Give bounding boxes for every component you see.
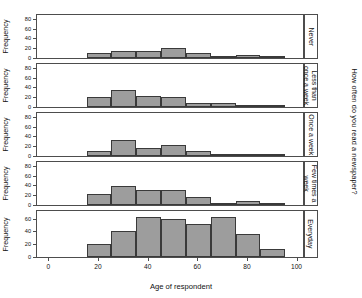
panel-never	[36, 14, 304, 59]
x-tick-label: 40	[138, 263, 158, 270]
strip-label-text: Less thanonce a week	[303, 66, 318, 105]
panel-everyday	[36, 210, 304, 258]
histogram-bar	[136, 148, 161, 156]
y-tick-label: 60	[17, 26, 31, 32]
histogram-bar	[161, 97, 186, 107]
y-tick	[33, 136, 36, 137]
histogram-bar	[260, 154, 285, 156]
y-axis-title-text: Frequency	[2, 20, 11, 54]
y-tick-label: 20	[17, 94, 31, 100]
y-tick	[33, 146, 36, 147]
y-axis-title-text: Frequency	[2, 69, 11, 103]
histogram-bar	[87, 194, 112, 205]
y-tick	[33, 231, 36, 232]
y-axis-title-text: Frequency	[2, 167, 11, 201]
y-tick	[33, 87, 36, 88]
y-axis-title-panel-3: Frequency	[0, 161, 12, 206]
strip-label-0: Never	[304, 14, 318, 59]
x-tick-label: 0	[38, 263, 58, 270]
y-tick	[33, 257, 36, 258]
y-axis-title-panel-1: Frequency	[0, 63, 12, 108]
y-tick-label: 60	[17, 124, 31, 130]
y-tick-label: 40	[17, 228, 31, 234]
y-tick-label: 20	[17, 192, 31, 198]
y-tick	[33, 166, 36, 167]
histogram-bar	[161, 48, 186, 58]
histogram-bar	[186, 224, 211, 257]
y-tick	[33, 107, 36, 108]
histogram-bar	[186, 197, 211, 205]
bars-group	[37, 15, 303, 58]
plot-area	[36, 63, 304, 108]
y-tick	[33, 38, 36, 39]
y-tick	[33, 195, 36, 196]
x-tick	[148, 258, 149, 261]
panel-once-a-week	[36, 112, 304, 157]
strip-title-text: How often do you read a newspaper?	[350, 68, 359, 194]
y-tick-label: 20	[17, 45, 31, 51]
x-tick	[247, 258, 248, 261]
plot-area	[36, 210, 304, 258]
bars-group	[37, 162, 303, 205]
histogram-bar	[236, 201, 261, 205]
histogram-bar	[260, 56, 285, 58]
y-tick	[33, 97, 36, 98]
histogram-bar	[136, 190, 161, 205]
y-tick	[33, 29, 36, 30]
histogram-bar	[236, 105, 261, 107]
strip-label-text: Few times aweek	[303, 165, 318, 203]
y-axis-title-panel-2: Frequency	[0, 112, 12, 157]
y-tick-label: 80	[17, 16, 31, 22]
x-tick-label: 20	[88, 263, 108, 270]
strip-title: How often do you read a newspaper?	[347, 0, 361, 262]
y-tick	[33, 117, 36, 118]
histogram-bar	[87, 53, 112, 58]
strip-label-2: Once a week	[304, 112, 318, 157]
histogram-bar	[87, 97, 112, 107]
x-tick	[197, 258, 198, 261]
strip-label-1: Less thanonce a week	[304, 63, 318, 108]
x-tick	[48, 258, 49, 261]
y-tick-label: 0	[17, 254, 31, 260]
histogram-bar	[211, 154, 236, 156]
histogram-bar	[186, 151, 211, 156]
histogram-bar	[236, 234, 261, 257]
x-tick	[98, 258, 99, 261]
histogram-bar	[136, 96, 161, 107]
histogram-bar	[161, 145, 186, 156]
trellis-histogram-figure: How often do you read a newspaper? Frequ…	[0, 0, 362, 298]
y-tick-label: 20	[17, 143, 31, 149]
strip-label-text: Everyday	[307, 219, 315, 248]
y-axis-title-text: Frequency	[2, 217, 11, 251]
bars-group	[37, 64, 303, 107]
panel-few-times-a-week	[36, 161, 304, 206]
histogram-bar	[111, 186, 136, 205]
y-tick	[33, 19, 36, 20]
x-tick-label: 60	[187, 263, 207, 270]
y-axis-title-text: Frequency	[2, 118, 11, 152]
histogram-bar	[161, 190, 186, 205]
histogram-bar	[211, 217, 236, 257]
x-tick-label: 80	[237, 263, 257, 270]
y-tick	[33, 244, 36, 245]
y-tick	[33, 156, 36, 157]
bars-group	[37, 211, 303, 257]
plot-area	[36, 112, 304, 157]
y-tick	[33, 127, 36, 128]
plot-area	[36, 14, 304, 59]
y-tick-label: 0	[17, 55, 31, 61]
y-tick-label: 40	[17, 84, 31, 90]
y-tick-label: 80	[17, 114, 31, 120]
histogram-bar	[211, 103, 236, 107]
y-tick	[33, 68, 36, 69]
histogram-bar	[186, 103, 211, 107]
histogram-bar	[111, 231, 136, 257]
y-tick-label: 40	[17, 35, 31, 41]
histogram-bar	[260, 203, 285, 205]
histogram-bar	[111, 90, 136, 107]
histogram-bar	[87, 244, 112, 257]
y-axis-title-panel-4: Frequency	[0, 210, 12, 258]
y-tick	[33, 205, 36, 206]
histogram-bar	[236, 154, 261, 156]
x-axis-title: Age of respondent	[0, 282, 362, 291]
